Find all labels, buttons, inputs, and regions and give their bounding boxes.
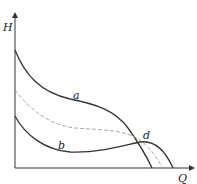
- y-axis-label: H: [2, 21, 13, 34]
- curve-b: [15, 116, 173, 168]
- x-axis-label: Q: [178, 172, 187, 184]
- chart-canvas: H Q a b d: [0, 0, 197, 184]
- curve-b-label: b: [58, 139, 65, 152]
- curve-a-label: a: [73, 89, 80, 102]
- curve-dashed: [15, 90, 162, 168]
- intersection-d-label: d: [143, 129, 150, 142]
- curve-a: [15, 50, 152, 168]
- pump-curve-diagram: H Q a b d: [0, 0, 197, 184]
